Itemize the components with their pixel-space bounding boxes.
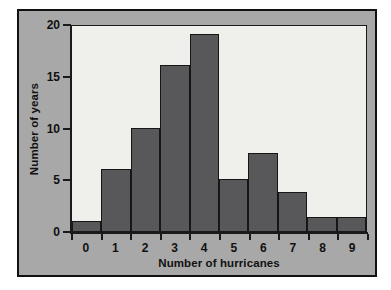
bar	[101, 169, 130, 231]
x-tick-label: 7	[278, 240, 308, 256]
figure-frame: Number of years 05101520 0123456789 Numb…	[17, 9, 377, 277]
x-tick-label: 6	[249, 240, 279, 256]
x-tick-labels: 0123456789	[71, 240, 367, 256]
x-tick	[367, 234, 369, 240]
x-tick-label: 9	[337, 240, 367, 256]
y-tick-label: 0	[53, 226, 60, 238]
x-tick-label: 2	[130, 240, 160, 256]
bar	[278, 192, 307, 231]
y-tick-label: 5	[53, 174, 60, 186]
x-tick-label: 4	[189, 240, 219, 256]
plot-inner	[72, 26, 366, 231]
y-tick-label: 20	[47, 19, 60, 31]
bar	[337, 217, 366, 231]
bar-cell	[131, 26, 160, 231]
y-tick: 5	[63, 179, 71, 181]
bar	[190, 34, 219, 231]
y-tick: 10	[63, 128, 71, 130]
bar-cell	[72, 26, 101, 231]
bar-cell	[219, 26, 248, 231]
y-tick-label: 10	[47, 123, 60, 135]
x-tick-label: 5	[219, 240, 249, 256]
y-axis-title: Number of years	[26, 25, 42, 233]
x-tick-label: 8	[308, 240, 338, 256]
histogram-chart: Number of years 05101520 0123456789 Numb…	[19, 11, 375, 275]
plot-area	[71, 25, 367, 232]
bar	[248, 153, 277, 231]
bar-cell	[248, 26, 277, 231]
bar-cell	[160, 26, 189, 231]
x-axis-title: Number of hurricanes	[71, 257, 367, 269]
x-tick-label: 0	[71, 240, 101, 256]
x-tick-label: 3	[160, 240, 190, 256]
bars-layer	[72, 26, 366, 231]
bar-cell	[278, 26, 307, 231]
bar	[72, 221, 101, 231]
bar	[307, 217, 336, 231]
bar-cell	[337, 26, 366, 231]
figure-root: Number of years 05101520 0123456789 Numb…	[0, 0, 391, 290]
bar-cell	[101, 26, 130, 231]
bar	[131, 128, 160, 232]
x-tick-label: 1	[101, 240, 131, 256]
y-tick-label: 15	[47, 71, 60, 83]
bar-cell	[190, 26, 219, 231]
y-axis-title-text: Number of years	[28, 83, 40, 175]
bar	[160, 65, 189, 231]
bar-cell	[307, 26, 336, 231]
y-tick: 15	[63, 76, 71, 78]
bar	[219, 179, 248, 231]
y-tick: 20	[63, 24, 71, 26]
